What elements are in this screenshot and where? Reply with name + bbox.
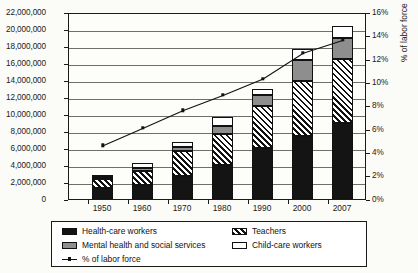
x-tick-label-1960: 1960 <box>122 204 162 213</box>
y2-tick-label: 8% <box>372 102 384 110</box>
legend-item-mental-health[interactable]: Mental health and social services <box>62 241 205 250</box>
y-tick-label: 0 <box>42 196 46 204</box>
y2-tick-label: 12% <box>372 56 388 64</box>
y2-tick-label: 4% <box>372 149 384 157</box>
line-marker-2000 <box>301 51 304 54</box>
x-tick-label-1990: 1990 <box>242 204 282 213</box>
line-marker-1950 <box>101 144 104 147</box>
x-tick-label-1950: 1950 <box>82 204 122 213</box>
y2-tick-mark <box>366 153 370 154</box>
y2-axis-title: % of labor force <box>399 3 409 62</box>
chart-figure: 0 2,000,000 4,000,000 6,000,000 8,000,00… <box>0 0 418 273</box>
x-tick-mark <box>288 200 289 204</box>
legend-label: Mental health and social services <box>82 241 205 250</box>
y-tick-label: 2,000,000 <box>10 179 46 187</box>
legend-label: Child-care workers <box>252 241 322 250</box>
chart-legend: Health-care workers Teachers Mental heal… <box>51 221 367 267</box>
x-tick-label-1970: 1970 <box>162 204 202 213</box>
diagonal-hatch-swatch-icon <box>232 228 247 236</box>
solid-black-swatch-icon <box>62 228 77 236</box>
line-marker-1970 <box>181 109 184 112</box>
y2-tick-mark <box>366 176 370 177</box>
labor-force-line-series <box>69 14 365 199</box>
line-marker-1960 <box>141 126 144 129</box>
legend-item-teachers[interactable]: Teachers <box>232 227 286 236</box>
y2-tick-label: 0% <box>372 196 384 204</box>
line-marker-1980 <box>221 93 224 96</box>
y2-tick-mark <box>366 13 370 14</box>
y2-tick-mark <box>366 106 370 107</box>
x-tick-mark <box>248 200 249 204</box>
legend-label: Health-care workers <box>82 227 157 236</box>
y2-tick-label: 14% <box>372 32 388 40</box>
x-tick-label-2000: 2000 <box>282 204 322 213</box>
plot-area <box>68 13 366 200</box>
y-tick-mark <box>64 200 68 201</box>
y2-tick-label: 16% <box>372 9 388 17</box>
y-tick-label: 20,000,000 <box>6 26 46 34</box>
legend-item-child-care[interactable]: Child-care workers <box>232 241 322 250</box>
y-tick-label: 6,000,000 <box>10 145 46 153</box>
x-tick-mark <box>128 200 129 204</box>
y2-tick-label: 2% <box>372 172 384 180</box>
y-tick-label: 22,000,000 <box>6 9 46 17</box>
y-tick-label: 4,000,000 <box>10 162 46 170</box>
y-tick-label: 18,000,000 <box>6 43 46 51</box>
x-tick-label-1980: 1980 <box>202 204 242 213</box>
y-tick-label: 12,000,000 <box>6 94 46 102</box>
legend-item-health-care[interactable]: Health-care workers <box>62 227 157 236</box>
x-tick-label-2007: 2007 <box>322 204 362 213</box>
legend-item-labor-force[interactable]: % of labor force <box>62 255 141 264</box>
y2-tick-mark <box>366 36 370 37</box>
x-tick-mark <box>88 200 89 204</box>
line-marker-1990 <box>261 77 264 80</box>
line-marker-swatch-icon <box>62 256 77 264</box>
legend-label: % of labor force <box>82 255 141 264</box>
y2-tick-mark <box>366 130 370 131</box>
y2-tick-label: 6% <box>372 126 384 134</box>
solid-white-swatch-icon <box>232 242 247 250</box>
solid-gray-swatch-icon <box>62 242 77 250</box>
y-tick-label: 10,000,000 <box>6 111 46 119</box>
y2-tick-mark <box>366 60 370 61</box>
y-tick-label: 14,000,000 <box>6 77 46 85</box>
y-tick-label: 16,000,000 <box>6 60 46 68</box>
line-marker-2007 <box>341 38 344 41</box>
x-tick-mark <box>208 200 209 204</box>
y2-tick-mark <box>366 200 370 201</box>
x-tick-mark <box>328 200 329 204</box>
legend-label: Teachers <box>252 227 286 236</box>
y2-tick-mark <box>366 83 370 84</box>
y2-tick-label: 10% <box>372 79 388 87</box>
x-tick-mark <box>168 200 169 204</box>
y-tick-label: 8,000,000 <box>10 128 46 136</box>
